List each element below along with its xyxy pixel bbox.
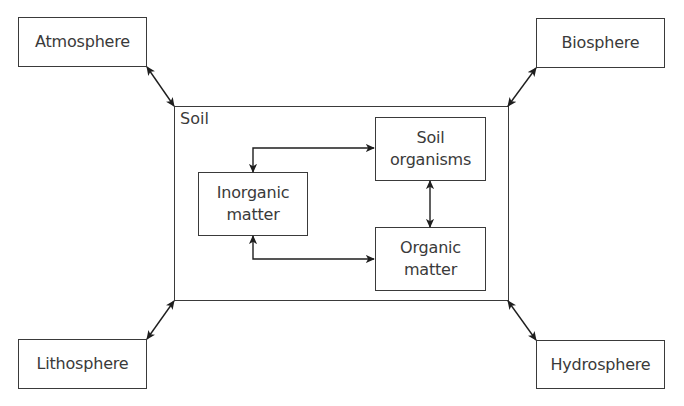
inorganic-to-organic-arrow: [253, 236, 374, 259]
lithosphere-soil-arrow: [147, 301, 174, 339]
atmosphere-soil-arrow: [147, 67, 174, 106]
connector-arrows: [0, 0, 684, 406]
biosphere-soil-arrow: [508, 68, 536, 106]
inorganic-to-organisms-arrow: [253, 148, 374, 172]
hydrosphere-soil-arrow: [508, 301, 536, 340]
